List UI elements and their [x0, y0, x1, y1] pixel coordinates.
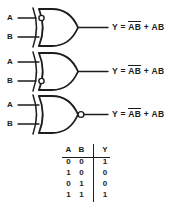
equation-2-plus: +: [144, 67, 149, 76]
equation-3: Y=AB+AB: [112, 107, 164, 118]
gate-row-3: A B Y=AB+AB: [0, 91, 180, 137]
equation-2-lhs: Y: [112, 67, 118, 76]
gate-2-input-b-label: B: [7, 77, 13, 85]
truth-table-cell-a: 1: [62, 191, 75, 199]
equation-3-plus: +: [144, 110, 149, 119]
equation-1-equals: =: [120, 23, 125, 32]
truth-table-cell-b: 1: [75, 191, 88, 199]
gate-1-input-a-label: A: [7, 14, 13, 22]
equation-1-plus: +: [144, 23, 149, 32]
truth-table-grid: A B Y 0 0 1 1 0 0 0 1 0 1 1 1: [62, 144, 124, 200]
gate-2-input-a-label: A: [7, 58, 13, 66]
truth-table-cell-b: 1: [75, 180, 88, 188]
equation-2-equals: =: [120, 67, 125, 76]
truth-table-cell-y: 0: [98, 169, 112, 177]
equation-3-term-1: AB: [128, 108, 141, 118]
truth-table-header-y: Y: [98, 146, 112, 154]
truth-table-cell-b: 0: [75, 158, 88, 166]
truth-table-header-a: A: [62, 146, 75, 154]
truth-table-column-divider: [93, 144, 94, 202]
truth-table-header-rule: [62, 157, 110, 158]
gate-row-1: A B Y=AB+AB: [0, 4, 180, 50]
truth-table-cell-a: 0: [62, 158, 75, 166]
equation-3-equals: =: [120, 110, 125, 119]
equation-1-lhs: Y: [112, 23, 118, 32]
gate-3-input-a-label: A: [7, 101, 13, 109]
gate-3-input-b-label: B: [7, 120, 13, 128]
truth-table: A B Y 0 0 1 1 0 0 0 1 0 1 1 1: [62, 144, 124, 200]
equation-2: Y=AB+AB: [112, 64, 164, 75]
truth-table-cell-y: 1: [98, 158, 112, 166]
equation-3-term-1-b: B: [135, 109, 141, 119]
equation-1: Y=AB+AB: [112, 20, 164, 31]
gate-1-input-b-label: B: [7, 33, 13, 41]
equation-1-term-2-b: B: [158, 23, 164, 32]
truth-table-cell-b: 0: [75, 169, 88, 177]
equation-3-lhs: Y: [112, 110, 118, 119]
truth-table-header-b: B: [75, 146, 88, 154]
equation-2-term-1-b: B: [135, 65, 141, 75]
truth-table-cell-y: 0: [98, 180, 112, 188]
equation-1-term-1-b: B: [135, 22, 141, 32]
truth-table-cell-y: 1: [98, 191, 112, 199]
equation-1-term-1: AB: [128, 21, 141, 31]
truth-table-cell-a: 1: [62, 169, 75, 177]
equation-2-term-2-b: B: [158, 67, 164, 76]
truth-table-cell-a: 0: [62, 180, 75, 188]
equation-3-term-2-b: B: [158, 110, 164, 119]
gate-row-2: A B Y=AB+AB: [0, 48, 180, 94]
